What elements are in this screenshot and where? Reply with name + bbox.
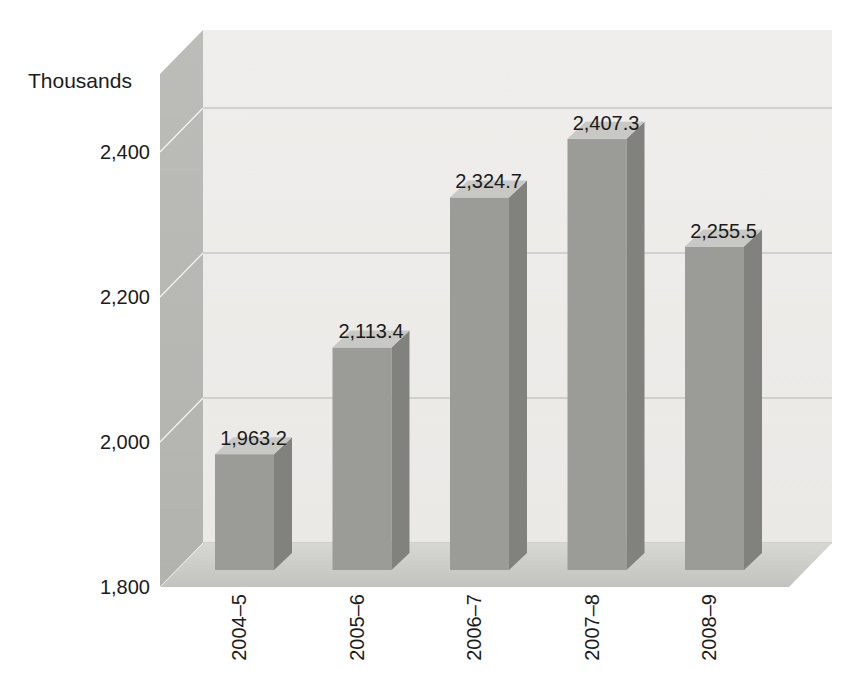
bar [568,122,645,570]
left-wall [160,30,203,587]
3d-bar-chart: 1,963.22,113.42,324.72,407.32,255.5 1,80… [0,0,849,687]
x-axis-category-label: 2008–9 [698,594,720,661]
y-axis-tick-label: 1,800 [100,576,150,598]
x-axis-category-label: 2006–7 [463,594,485,661]
bar-side-face [392,330,410,570]
bar-value-label: 2,255.5 [690,220,757,242]
bar-side-face [509,180,527,570]
x-axis-category-label: 2004–5 [228,594,250,661]
bar [333,330,410,570]
bar-value-label: 2,407.3 [573,112,640,134]
bar-front-face [333,347,392,570]
bar [685,230,762,570]
bar [450,180,527,570]
bar-value-label: 2,113.4 [338,320,403,342]
bar-front-face [685,247,744,570]
bar-front-face [568,139,627,570]
bar-side-face [744,230,762,570]
x-axis-category-labels: 2004–52005–62006–72007–82008–9 [228,594,720,661]
y-axis-tick-label: 2,400 [100,141,150,163]
y-axis-tick-label: 2,000 [100,431,150,453]
chart-figure: 1,963.22,113.42,324.72,407.32,255.5 1,80… [0,0,849,687]
x-axis-category-label: 2007–8 [581,594,603,661]
bar-front-face [215,454,274,570]
bar-value-label: 2,324.7 [455,170,522,192]
x-axis-category-label: 2005–6 [346,594,368,661]
y-axis-title: Thousands [28,69,132,92]
bar-side-face [627,122,645,570]
y-axis-tick-labels: 1,8002,0002,2002,400 [100,141,150,598]
bar [215,437,292,570]
bar-side-face [274,437,292,570]
y-axis-tick-label: 2,200 [100,286,150,308]
bar-value-label: 1,963.2 [220,427,287,449]
bar-front-face [450,197,509,570]
